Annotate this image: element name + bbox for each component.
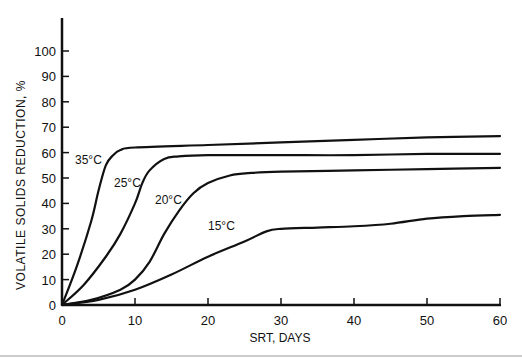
label-20c: 20°C	[155, 193, 182, 207]
y-tick-label: 40	[42, 196, 56, 211]
y-tick-label: 80	[42, 95, 56, 110]
y-tick-label: 10	[42, 273, 56, 288]
curves	[62, 136, 500, 305]
y-axis-label: VOLATILE SOLIDS REDUCTION, %	[14, 80, 28, 290]
y-tick-label: 70	[42, 120, 56, 135]
chart: 0102030405060708090100 0102030405060 VOL…	[0, 0, 522, 362]
label-35c: 35°C	[75, 153, 102, 167]
x-tick-label: 40	[347, 313, 361, 328]
y-tick-label: 50	[42, 171, 56, 186]
x-ticks: 0102030405060	[58, 298, 507, 328]
y-tick-label: 60	[42, 146, 56, 161]
x-tick-label: 30	[274, 313, 288, 328]
y-tick-label: 30	[42, 222, 56, 237]
x-tick-label: 50	[420, 313, 434, 328]
x-tick-label: 0	[58, 313, 65, 328]
axes	[62, 18, 501, 305]
label-25c: 25°C	[114, 176, 141, 190]
label-15c: 15°C	[208, 219, 235, 233]
x-tick-label: 60	[493, 313, 507, 328]
x-tick-label: 20	[201, 313, 215, 328]
y-tick-label: 0	[49, 298, 56, 313]
x-tick-label: 10	[128, 313, 142, 328]
y-tick-label: 100	[34, 44, 56, 59]
y-tick-label: 90	[42, 69, 56, 84]
y-tick-label: 20	[42, 247, 56, 262]
curve-15c	[62, 215, 500, 305]
y-ticks: 0102030405060708090100	[34, 44, 69, 313]
x-axis-label: SRT, DAYS	[250, 331, 311, 345]
